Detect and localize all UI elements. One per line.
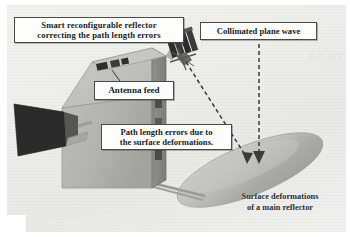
caption-surface-deformations: Surface deformations of a main reflector <box>216 192 344 213</box>
caption-surface-deformations-line1: Surface deformations <box>216 192 344 203</box>
callout-path-errors-line1: Path length errors due to <box>106 127 227 137</box>
callout-smart-reflector-line2: correcting the path length errors <box>19 30 179 40</box>
caption-surface-deformations-line2: of a main reflector <box>216 203 344 214</box>
callout-antenna-feed: Antenna feed <box>94 81 174 100</box>
callout-path-length-errors: Path length errors due to the surface de… <box>101 124 232 150</box>
callout-smart-reconfigurable-reflector: Smart reconfigurable reflector correctin… <box>14 17 184 43</box>
callout-smart-reflector-line1: Smart reconfigurable reflector <box>19 20 179 30</box>
callout-collimated-plane-wave: Collimated plane wave <box>200 22 317 40</box>
callout-antenna-feed-line1: Antenna feed <box>99 85 169 96</box>
callout-path-errors-line2: the surface deformations. <box>106 137 227 147</box>
callout-plane-wave-line1: Collimated plane wave <box>205 26 312 36</box>
figure-container: JTE SA reflected page text ir <box>0 0 350 237</box>
